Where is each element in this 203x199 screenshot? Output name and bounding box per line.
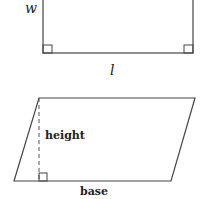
height-label: height <box>45 129 86 142</box>
length-label: l <box>110 62 114 78</box>
parallelogram-shape <box>14 98 195 181</box>
parallelogram-figure: height base <box>14 98 195 198</box>
right-angle-marker-height <box>39 173 47 181</box>
geometry-diagram: w l height base <box>0 0 203 199</box>
rectangle-shape <box>43 0 193 53</box>
base-label: base <box>80 185 108 198</box>
width-label: w <box>25 0 37 16</box>
rectangle-figure: w l <box>25 0 193 78</box>
right-angle-marker-bottom-right <box>184 45 193 53</box>
right-angle-marker-bottom-left <box>43 45 52 53</box>
